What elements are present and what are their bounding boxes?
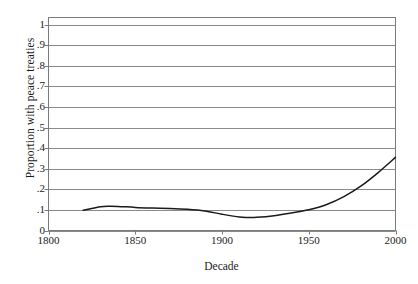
data-line-series-0 <box>83 157 395 217</box>
frame-rect <box>49 18 396 231</box>
gridlines <box>49 26 396 232</box>
x-axis-title: Decade <box>48 260 395 272</box>
plot-frame <box>49 18 396 231</box>
axis-tick-marks <box>45 26 397 235</box>
chart-figure: Proportion with peace treaties 0.1.2.3.4… <box>0 0 418 284</box>
plot-area <box>0 0 418 284</box>
